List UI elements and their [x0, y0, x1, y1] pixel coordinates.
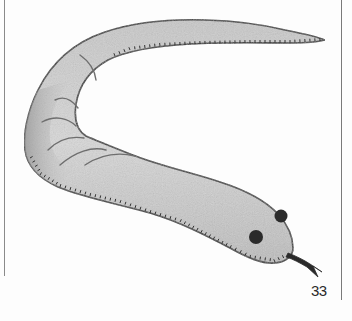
- snake-illustration: [0, 0, 352, 321]
- left-eye: [249, 230, 263, 244]
- right-eye: [275, 210, 288, 223]
- snake-body: [25, 20, 325, 263]
- stitch-mark: [100, 195, 101, 198]
- stitch-mark: [95, 194, 96, 197]
- page-number: 33: [311, 282, 327, 299]
- forked-tongue: [286, 253, 322, 277]
- stitch-mark: [110, 198, 111, 201]
- book-page: 33: [0, 0, 352, 321]
- stitch-mark: [90, 193, 91, 196]
- stitch-mark: [115, 199, 116, 202]
- stitch-mark: [105, 197, 106, 200]
